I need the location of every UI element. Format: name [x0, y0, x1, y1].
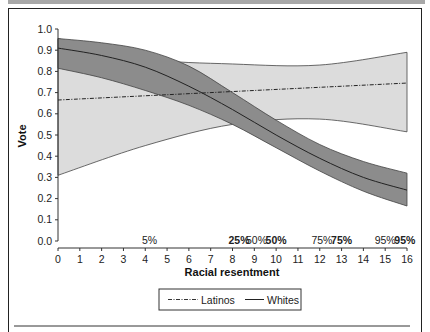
- x-tick-label: 1: [77, 253, 83, 265]
- y-tick-label: 0.5: [37, 129, 52, 141]
- x-tick-label: 9: [251, 253, 257, 265]
- x-tick-label: 2: [99, 253, 105, 265]
- x-tick-label: 12: [314, 253, 326, 265]
- x-tick-label: 13: [336, 253, 348, 265]
- x-tick-label: 16: [401, 253, 413, 265]
- x-tick-label: 5: [164, 253, 170, 265]
- y-tick-label: 1.0: [37, 23, 52, 35]
- percentile-label: 5%: [142, 234, 157, 246]
- percentile-label: 50%: [246, 234, 267, 246]
- y-axis-title: Vote: [16, 124, 28, 147]
- legend: Latinos Whites: [159, 289, 301, 310]
- y-tick-label: 0.8: [37, 65, 52, 77]
- y-tick-label: 0.7: [37, 86, 52, 98]
- y-tick-label: 0.3: [37, 171, 52, 183]
- percentile-label: 75%: [311, 234, 332, 246]
- y-tick-label: 0.1: [37, 213, 52, 225]
- chart: 0.00.10.20.30.40.50.60.70.80.91.00123456…: [0, 0, 430, 332]
- percentile-label: 50%: [266, 234, 288, 246]
- x-tick-label: 10: [270, 253, 282, 265]
- x-tick-label: 15: [379, 253, 391, 265]
- y-tick-label: 0.2: [37, 192, 52, 204]
- percentile-annotations: 5%25%50%50%75%75%95%95%: [142, 234, 416, 246]
- x-tick-label: 6: [186, 253, 192, 265]
- legend-whites-label: Whites: [267, 294, 299, 306]
- percentile-label: 75%: [331, 234, 353, 246]
- x-tick-label: 0: [55, 253, 61, 265]
- percentile-label: 95%: [394, 234, 416, 246]
- x-tick-label: 7: [208, 253, 214, 265]
- x-tick-label: 3: [121, 253, 127, 265]
- y-tick-label: 0.0: [37, 235, 52, 247]
- legend-latinos-label: Latinos: [201, 294, 235, 306]
- x-tick-label: 14: [358, 253, 370, 265]
- y-tick-label: 0.9: [37, 44, 52, 56]
- x-tick-label: 4: [142, 253, 148, 265]
- x-axis-title: Racial resentment: [185, 266, 280, 278]
- x-tick-label: 11: [292, 253, 303, 265]
- y-tick-label: 0.4: [37, 150, 52, 162]
- percentile-label: 95%: [375, 234, 396, 246]
- y-tick-label: 0.6: [37, 107, 52, 119]
- x-tick-label: 8: [230, 253, 236, 265]
- confidence-bands: [58, 39, 407, 206]
